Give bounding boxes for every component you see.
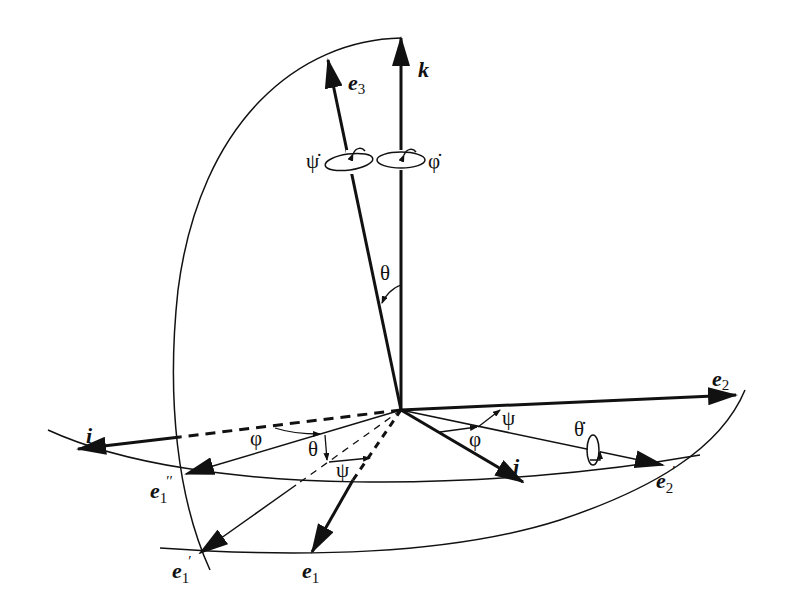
label-theta-top: θ <box>380 261 390 285</box>
label-psi-left: ψ <box>336 458 349 482</box>
theta-dot-rotation-icon <box>587 435 600 465</box>
label-psi-right: ψ <box>502 406 515 430</box>
label-e1p-mark: ′ <box>188 553 191 569</box>
label-phi-left: φ <box>250 426 262 450</box>
psi-right-arrow <box>478 410 500 427</box>
theta-angle-arc <box>382 285 401 303</box>
e2-axis <box>401 395 736 410</box>
label-e1dp-letter: e <box>150 478 160 503</box>
theta-left-arrow <box>325 435 327 460</box>
label-e2p-letter: e <box>656 468 666 493</box>
label-e2-prime: e2′ <box>656 463 676 496</box>
label-e1: e1 <box>302 558 319 586</box>
phi-dot-rotation-icon <box>377 149 425 170</box>
label-psi-dot: ψ̇ <box>306 149 321 173</box>
meridian-arc <box>173 38 401 570</box>
phi-left-arrow <box>275 428 320 434</box>
label-k: k <box>418 57 429 82</box>
label-e3-sub: 3 <box>358 81 366 97</box>
label-phi-dot: φ̇ <box>428 149 442 173</box>
label-i: i <box>86 423 93 448</box>
label-e2p-sub: 2 <box>666 480 674 496</box>
label-theta-dot: θ̇ <box>574 417 586 441</box>
label-phi-right: φ <box>469 427 481 451</box>
label-e2p-mark: ′ <box>672 463 675 479</box>
e1-axis <box>312 480 353 552</box>
label-e1dp-sub: 1 <box>160 490 168 506</box>
i-axis <box>78 437 180 449</box>
e1-double-prime-line <box>186 410 401 474</box>
label-e1p-letter: e <box>172 558 182 583</box>
label-e1-double-prime: e1′′ <box>150 473 173 506</box>
label-e2-letter: e <box>712 366 722 391</box>
e1-prime-line <box>200 485 296 553</box>
label-e3-letter: e <box>348 70 358 95</box>
label-e2: e2 <box>712 366 729 393</box>
psi-dot-rotation-icon <box>324 148 374 174</box>
label-e2-sub: 2 <box>722 377 730 393</box>
equator-arc-top <box>48 430 700 482</box>
label-e1p-sub: 1 <box>182 570 190 586</box>
euler-angles-diagram: k e3 ψ̇ φ̇ θ i e2 j φ θ ψ φ ψ θ̇ e1′′ e1… <box>0 0 785 616</box>
label-e1dp-mark: ′′ <box>166 473 173 489</box>
e2-prime-line <box>401 410 663 465</box>
label-e1-letter: e <box>302 558 312 583</box>
label-e1-prime: e1′ <box>172 553 192 586</box>
label-e3: e3 <box>348 70 365 97</box>
e3-axis <box>328 60 401 410</box>
label-e1-sub: 1 <box>312 570 320 586</box>
label-theta-left: θ <box>308 437 318 461</box>
e1-dashed <box>353 410 401 480</box>
